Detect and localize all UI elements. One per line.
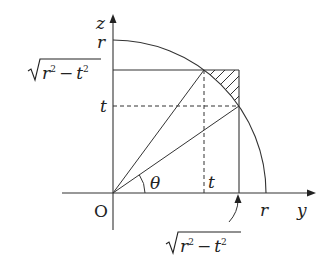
- origin-label: O: [94, 201, 108, 221]
- quarter-circle-arc: [113, 40, 266, 193]
- horizontal-axis-arrow-icon: [307, 190, 316, 197]
- r-label-vertical: r: [97, 32, 106, 52]
- sqrt-label-vertical: r2−t2: [28, 59, 101, 83]
- y-axis-label: y: [296, 200, 307, 220]
- r-label-horizontal: r: [260, 200, 269, 220]
- sqrt-label-horizontal: r2−t2: [166, 232, 241, 256]
- svg-text:r2−t2: r2−t2: [180, 236, 227, 256]
- sqrt-pointer-curve: [229, 200, 238, 222]
- t-label-horizontal: t: [208, 172, 215, 192]
- radius-line-lower: [113, 106, 239, 193]
- z-axis-label: z: [95, 13, 106, 33]
- theta-angle-arc: [139, 175, 145, 193]
- svg-text:r2−t2: r2−t2: [42, 63, 89, 83]
- quarter-circle-diagram: z y O r r t t θ r2−t2 r2−t2: [0, 0, 330, 265]
- sqrt-pointer-arrow-icon: [235, 194, 242, 203]
- theta-label: θ: [150, 173, 160, 193]
- vertical-axis-arrow-icon: [110, 14, 117, 23]
- t-label-vertical: t: [100, 96, 107, 116]
